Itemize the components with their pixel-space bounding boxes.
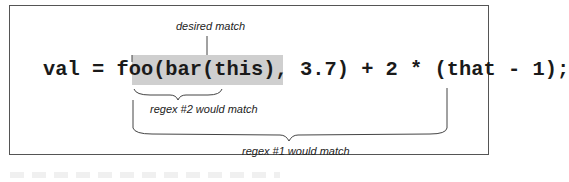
regex1-brace	[133, 128, 447, 141]
regex1-label: regex #1 would match	[242, 145, 350, 157]
regex2-brace	[134, 89, 222, 100]
regex2-label: regex #2 would match	[150, 103, 258, 115]
desired-match-label: desired match	[176, 20, 245, 32]
cropped-caption	[10, 172, 280, 178]
